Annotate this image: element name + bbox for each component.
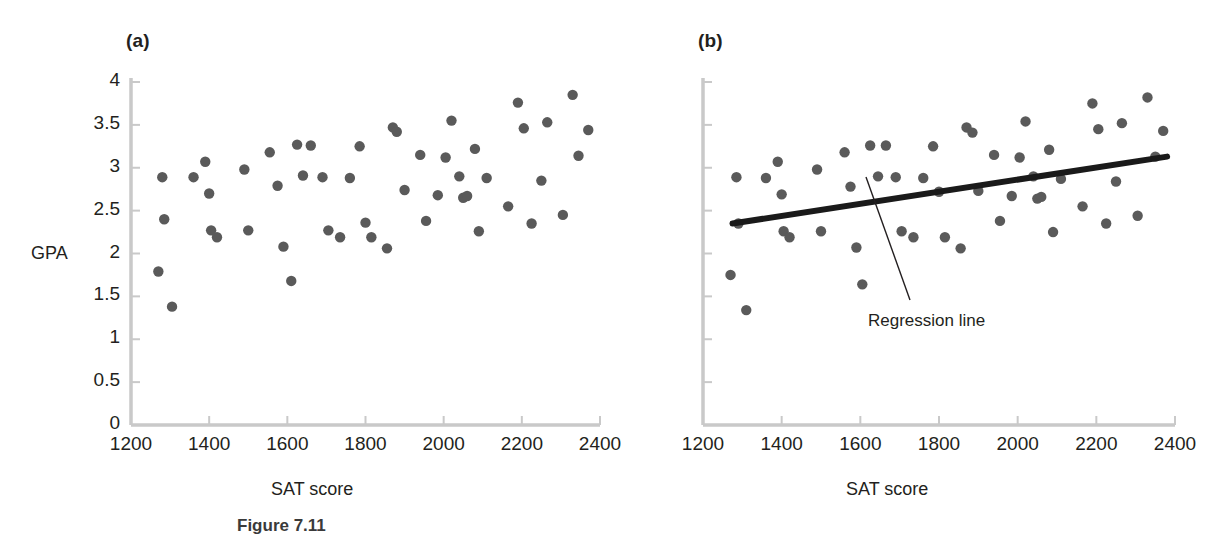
data-point <box>454 171 464 181</box>
y-tick-label: 1.5 <box>60 283 120 305</box>
y-tick-label: 0 <box>60 412 120 434</box>
data-point <box>292 139 302 149</box>
data-point <box>470 144 480 154</box>
data-point <box>382 243 392 253</box>
data-point <box>995 216 1005 226</box>
data-point <box>908 232 918 242</box>
data-point <box>265 147 275 157</box>
data-point <box>776 189 786 199</box>
panel-b-x-axis-title: SAT score <box>846 479 928 500</box>
data-point <box>474 226 484 236</box>
data-point <box>513 97 523 107</box>
data-point <box>526 218 536 228</box>
data-point <box>845 181 855 191</box>
data-point <box>421 216 431 226</box>
data-point <box>481 173 491 183</box>
x-tick-label: 1400 <box>169 433 249 455</box>
data-point <box>940 232 950 242</box>
x-tick-label: 2200 <box>1056 433 1136 455</box>
y-tick-label: 1 <box>60 326 120 348</box>
data-point <box>773 157 783 167</box>
data-point <box>298 170 308 180</box>
data-point <box>784 232 794 242</box>
data-point <box>335 232 345 242</box>
data-point <box>955 243 965 253</box>
data-point <box>1077 201 1087 211</box>
panel-b: (b) Regression line SAT score 1200140016… <box>572 0 1176 529</box>
x-tick-label: 1800 <box>326 433 406 455</box>
data-point <box>873 171 883 181</box>
data-point <box>1087 98 1097 108</box>
data-point <box>741 305 751 315</box>
x-tick-label: 2000 <box>978 433 1058 455</box>
data-point <box>1117 118 1127 128</box>
panel-b-plot-area <box>572 0 1176 470</box>
data-point <box>1014 152 1024 162</box>
data-point <box>816 226 826 236</box>
data-point <box>1036 192 1046 202</box>
data-point <box>1101 218 1111 228</box>
panel-a: (a) GPA SAT score 00.511.522.533.5412001… <box>0 0 604 529</box>
data-point <box>392 127 402 137</box>
data-point <box>519 123 529 133</box>
data-point <box>272 181 282 191</box>
data-point <box>928 141 938 151</box>
data-point <box>1132 211 1142 221</box>
y-tick-label: 2.5 <box>60 198 120 220</box>
x-tick-label: 2400 <box>1135 433 1208 455</box>
data-point <box>317 172 327 182</box>
data-point <box>839 147 849 157</box>
data-point <box>1111 176 1121 186</box>
data-point <box>159 214 169 224</box>
panel-a-x-axis-title: SAT score <box>271 479 353 500</box>
data-point <box>433 190 443 200</box>
x-tick-label: 1600 <box>820 433 900 455</box>
data-point <box>857 279 867 289</box>
data-point <box>731 172 741 182</box>
x-tick-label: 2000 <box>404 433 484 455</box>
data-point <box>536 175 546 185</box>
data-point <box>204 188 214 198</box>
data-point <box>212 232 222 242</box>
data-point <box>354 141 364 151</box>
data-point <box>542 117 552 127</box>
data-point <box>1093 124 1103 134</box>
data-point <box>306 140 316 150</box>
data-point <box>918 173 928 183</box>
data-point <box>761 173 771 183</box>
x-tick-label: 1400 <box>742 433 822 455</box>
data-point <box>896 226 906 236</box>
data-point <box>446 115 456 125</box>
data-point <box>243 225 253 235</box>
data-point <box>851 242 861 252</box>
x-tick-label: 1800 <box>899 433 979 455</box>
figure-caption: Figure 7.11 <box>237 516 326 536</box>
regression-line-annotation: Regression line <box>868 311 985 331</box>
data-point <box>1048 227 1058 237</box>
data-point <box>360 217 370 227</box>
data-point <box>881 140 891 150</box>
data-point <box>1158 126 1168 136</box>
y-tick-label: 3 <box>60 155 120 177</box>
y-tick-label: 0.5 <box>60 369 120 391</box>
data-point <box>200 157 210 167</box>
data-point <box>153 266 163 276</box>
data-point <box>462 191 472 201</box>
x-tick-label: 1200 <box>663 433 743 455</box>
data-point <box>278 241 288 251</box>
x-tick-label: 1600 <box>247 433 327 455</box>
data-point <box>812 164 822 174</box>
data-point <box>725 270 735 280</box>
data-point <box>967 127 977 137</box>
y-tick-label: 3.5 <box>60 112 120 134</box>
data-point <box>167 301 177 311</box>
data-point <box>286 276 296 286</box>
data-point <box>366 232 376 242</box>
data-point <box>1007 191 1017 201</box>
data-point <box>440 152 450 162</box>
data-point <box>503 201 513 211</box>
data-point <box>345 173 355 183</box>
data-point <box>865 140 875 150</box>
data-point <box>558 210 568 220</box>
